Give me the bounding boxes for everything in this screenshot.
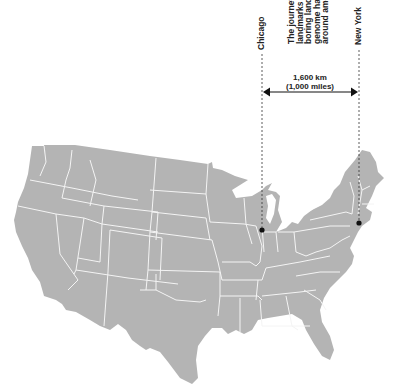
caption-line: around amo — [321, 0, 330, 44]
us-landmass — [14, 145, 384, 384]
chicago-label: Chicago — [257, 16, 266, 50]
newyork-label: New York — [354, 7, 363, 45]
us-map — [0, 0, 394, 389]
chicago-dot — [259, 227, 264, 232]
distance-km-label: 1,600 km — [265, 73, 355, 82]
distance-miles-label: (1,000 miles) — [265, 82, 355, 91]
us-map-figure: Chicago New York The journey t landmarks… — [0, 0, 394, 389]
caption-text-block: The journey t landmarks a boring lands g… — [287, 0, 330, 44]
newyork-dot — [356, 220, 361, 225]
